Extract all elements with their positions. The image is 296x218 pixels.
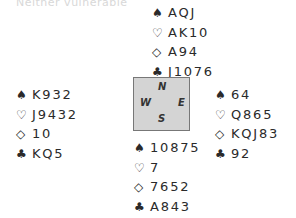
compass-box: N W E S (133, 77, 190, 131)
north-spades: ♠AQJ (152, 3, 214, 23)
south-spades: ♠10875 (134, 138, 200, 158)
compass-east: E (178, 97, 185, 108)
south-diamonds: ◇7652 (134, 177, 200, 197)
diamond-icon: ◇ (152, 43, 168, 63)
compass-north: N (158, 81, 166, 92)
club-icon: ♣ (215, 145, 231, 165)
south-clubs: ♣A843 (134, 197, 200, 217)
spade-icon: ♠ (134, 139, 150, 159)
club-icon: ♣ (134, 198, 150, 218)
spade-icon: ♠ (152, 4, 168, 24)
compass-south: S (158, 113, 165, 124)
spade-icon: ♠ (215, 86, 231, 106)
west-clubs: ♣KQ5 (16, 144, 78, 164)
heart-icon: ♡ (134, 159, 150, 179)
north-hand: ♠AQJ ♡AK10 ◇A94 ♣J1076 (152, 3, 214, 81)
diamond-icon: ◇ (16, 125, 32, 145)
diamond-icon: ◇ (215, 125, 231, 145)
west-spades: ♠K932 (16, 85, 78, 105)
west-diamonds: ◇10 (16, 124, 78, 144)
south-hearts: ♡7 (134, 158, 200, 178)
spade-icon: ♠ (16, 86, 32, 106)
heart-icon: ♡ (16, 106, 32, 126)
east-diamonds: ◇KQJ83 (215, 124, 279, 144)
east-clubs: ♣92 (215, 144, 279, 164)
compass-west: W (140, 97, 151, 108)
east-hearts: ♡Q865 (215, 105, 279, 125)
diamond-icon: ◇ (134, 178, 150, 198)
west-hearts: ♡J9432 (16, 105, 78, 125)
east-spades: ♠64 (215, 85, 279, 105)
heart-icon: ♡ (215, 106, 231, 126)
east-hand: ♠64 ♡Q865 ◇KQJ83 ♣92 (215, 85, 279, 163)
west-hand: ♠K932 ♡J9432 ◇10 ♣KQ5 (16, 85, 78, 163)
north-diamonds: ◇A94 (152, 42, 214, 62)
club-icon: ♣ (16, 145, 32, 165)
heart-icon: ♡ (152, 24, 168, 44)
north-hearts: ♡AK10 (152, 23, 214, 43)
south-hand: ♠10875 ♡7 ◇7652 ♣A843 (134, 138, 200, 216)
vulnerability-label: Neither vulnerable (16, 0, 127, 9)
